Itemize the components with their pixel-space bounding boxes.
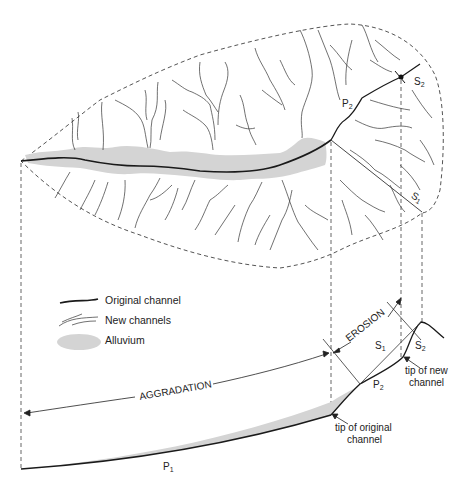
alluvium-swatch bbox=[57, 334, 101, 350]
drainage-basin-diagram: P2 S2 S1 EROSION bbox=[0, 0, 464, 487]
plan-label-p2: P2 bbox=[342, 98, 353, 110]
legend-item-alluvium: Alluvium bbox=[57, 334, 145, 350]
alluvium-band bbox=[25, 138, 327, 180]
erosion-label: EROSION bbox=[343, 307, 386, 344]
plan-label-s2: S2 bbox=[414, 76, 425, 88]
plan-view: P2 S2 S1 bbox=[21, 24, 443, 268]
profile-label-s2: S2 bbox=[415, 340, 426, 352]
erosion-tick-left bbox=[323, 339, 360, 384]
s1-line bbox=[331, 140, 422, 212]
profile-alluvium bbox=[21, 388, 355, 469]
new-channels bbox=[55, 25, 434, 250]
projection-lines bbox=[21, 80, 422, 468]
legend: Original channel New channels Alluvium bbox=[57, 294, 181, 350]
tip-new-label-line1: tip of new bbox=[405, 365, 449, 376]
tip-original-label-line2: channel bbox=[347, 434, 382, 445]
profile-label-p1: P1 bbox=[163, 461, 174, 473]
tip-new-label-line2: channel bbox=[409, 377, 444, 388]
legend-label: Original channel bbox=[105, 294, 181, 306]
erosion-tick-right bbox=[387, 302, 421, 340]
profile-view: EROSION AGGRADATION P1 P2 S1 S2 tip of o… bbox=[21, 298, 449, 473]
legend-item-new-channels: New channels bbox=[59, 314, 171, 326]
original-channel-swatch bbox=[60, 299, 98, 303]
legend-item-original-channel: Original channel bbox=[60, 294, 181, 306]
aggradation-label: AGGRADATION bbox=[138, 378, 212, 402]
tip-original-label-line1: tip of original bbox=[335, 422, 392, 433]
basin-boundary bbox=[21, 24, 443, 268]
new-channels-swatch bbox=[59, 314, 98, 326]
legend-label: New channels bbox=[105, 314, 171, 326]
s2-point-marker bbox=[395, 71, 405, 83]
profile-label-p2: P2 bbox=[373, 379, 384, 391]
legend-label: Alluvium bbox=[105, 334, 145, 346]
profile-label-s1: S1 bbox=[375, 340, 386, 352]
